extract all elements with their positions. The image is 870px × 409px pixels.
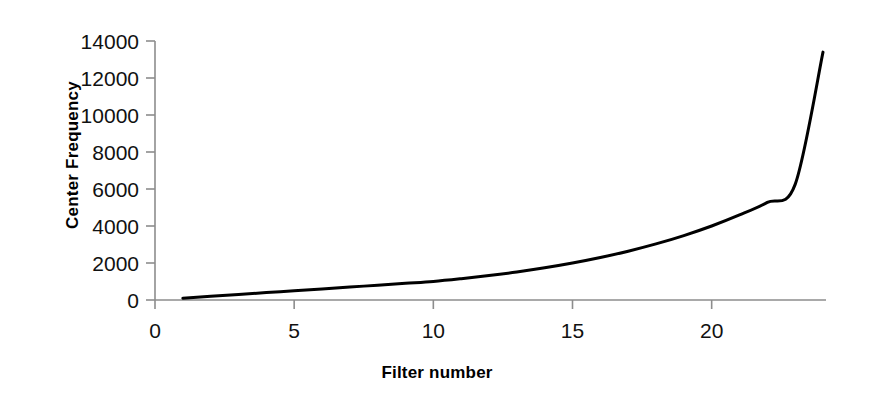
- y-tick-label: 10000: [81, 104, 139, 127]
- x-tick-label: 15: [561, 319, 584, 342]
- chart-container: 02000400060008000100001200014000 0510152…: [0, 0, 870, 409]
- x-tick-label: 0: [149, 319, 161, 342]
- y-tick-label: 8000: [92, 141, 139, 164]
- center-frequency-line-chart: 02000400060008000100001200014000 0510152…: [0, 0, 870, 409]
- y-tick-label: 0: [127, 289, 139, 312]
- y-tick-label: 2000: [92, 252, 139, 275]
- x-tick-label: 10: [422, 319, 445, 342]
- y-tick-label: 12000: [81, 67, 139, 90]
- x-axis-title: Filter number: [381, 363, 492, 382]
- y-tick-label: 14000: [81, 30, 139, 53]
- x-tick-label: 5: [288, 319, 300, 342]
- x-tick-label: 20: [700, 319, 723, 342]
- chart-background: [0, 0, 870, 409]
- y-tick-label: 4000: [92, 215, 139, 238]
- y-tick-label: 6000: [92, 178, 139, 201]
- y-axis-title: Center Frequency: [63, 81, 82, 229]
